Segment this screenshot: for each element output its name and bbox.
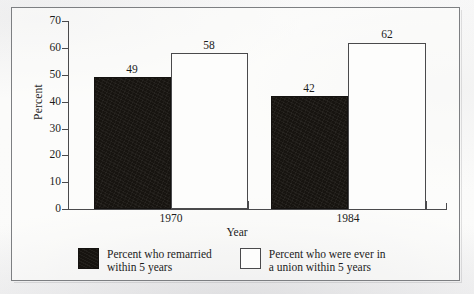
legend-label-remarried: Percent who remarried within 5 years [107,247,212,273]
y-tick-label-10: 10 [35,176,61,188]
y-tick-60 [62,48,69,49]
y-tick-40 [62,102,69,103]
bar-value-1970-union: 58 [174,40,244,52]
legend-swatch-dark-icon [78,248,99,269]
bar-value-1984-remarried: 42 [274,83,344,95]
x-axis-end-tick [446,203,447,210]
y-tick-30 [62,129,69,130]
y-tick-20 [62,155,69,156]
y-tick-label-70: 70 [35,15,61,27]
y-tick-label-50: 50 [35,69,61,81]
x-axis-title: Year [0,226,474,238]
bar-1984-remarried [271,96,348,209]
y-tick-0 [62,209,69,210]
y-tick-label-40: 40 [35,96,61,108]
legend-item-remarried: Percent who remarried within 5 years [78,247,212,273]
y-tick-label-30: 30 [35,123,61,135]
y-tick-label-20: 20 [35,149,61,161]
y-tick-label-60: 60 [35,42,61,54]
y-tick-10 [62,182,69,183]
legend-swatch-light-icon [240,248,261,269]
y-tick-50 [62,75,69,76]
legend-item-union: Percent who were ever in a union within … [240,247,386,273]
x-tick-label-1984: 1984 [313,212,383,224]
bar-chart: Percent 70 60 50 40 30 20 10 0 49 58 197… [0,0,474,294]
bar-1984-union [348,43,426,210]
x-tick-separator [248,201,249,210]
y-tick-label-0: 0 [35,203,61,215]
bar-1970-remarried [94,77,171,209]
bar-value-1970-remarried: 49 [97,64,167,76]
chart-legend: Percent who remarried within 5 years Per… [78,247,386,273]
x-tick-separator-right [426,201,427,210]
legend-label-union: Percent who were ever in a union within … [269,247,386,273]
bar-1970-union [171,53,248,209]
x-tick-label-1970: 1970 [136,212,206,224]
bar-value-1984-union: 62 [352,29,422,41]
y-tick-70 [62,21,69,22]
